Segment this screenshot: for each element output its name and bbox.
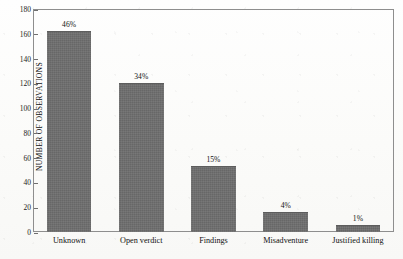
x-axis-category-label: Open verdict bbox=[105, 235, 177, 247]
y-axis-tick-mark bbox=[34, 109, 38, 110]
x-axis-category-label: Findings bbox=[177, 235, 249, 247]
y-axis-tick-mark bbox=[34, 59, 38, 60]
y-axis-tick-label: 80 bbox=[24, 128, 32, 140]
y-axis-tick-label: 20 bbox=[24, 202, 32, 214]
y-axis-tick-mark bbox=[34, 84, 38, 85]
y-axis-tick-mark bbox=[34, 208, 38, 209]
y-axis-tick-label: 120 bbox=[20, 78, 31, 90]
y-axis-tick-label: 60 bbox=[24, 153, 32, 165]
y-axis-tick-label: 140 bbox=[20, 54, 31, 66]
y-axis-tick-mark bbox=[34, 158, 38, 159]
x-axis-category-label: Unknown bbox=[33, 235, 105, 247]
y-axis-tick-mark bbox=[34, 133, 38, 134]
y-axis-tick-mark bbox=[34, 34, 38, 35]
y-axis-tick-mark bbox=[34, 233, 38, 234]
x-axis-category-label: Justified killing bbox=[322, 235, 394, 247]
y-axis-tick-label: 0 bbox=[27, 227, 31, 239]
y-axis-tick-mark bbox=[34, 10, 38, 11]
x-axis-category-labels: UnknownOpen verdictFindingsMisadventureJ… bbox=[33, 235, 394, 251]
y-axis-tick-label: 40 bbox=[24, 177, 32, 189]
y-axis-tick-label: 160 bbox=[20, 29, 31, 41]
x-axis-category-label: Misadventure bbox=[250, 235, 322, 247]
plot-area-frame: 020406080100120140160180 bbox=[33, 9, 394, 232]
bar-chart-figure: NUMBER OF OBSERVATIONS 02040608010012014… bbox=[0, 0, 403, 259]
y-axis-tick-label: 100 bbox=[20, 103, 31, 115]
y-axis-tick-mark bbox=[34, 183, 38, 184]
y-axis-tick-label: 180 bbox=[20, 4, 31, 16]
